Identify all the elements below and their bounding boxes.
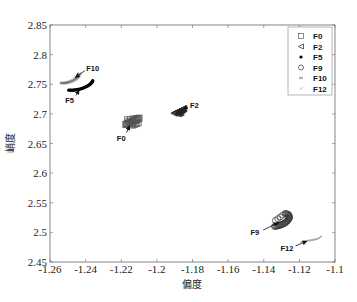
annotation-f9: F9	[250, 228, 259, 237]
y-tick-label: 2.7	[33, 108, 47, 120]
y-tick-label: 2.5	[33, 226, 47, 238]
annotation-f2: F2	[190, 101, 199, 110]
annotation-f0: F0	[117, 134, 126, 143]
y-tick-label: 2.6	[33, 167, 47, 179]
x-tick-label: -1.24	[74, 263, 97, 275]
y-tick-label: 2.85	[28, 19, 48, 31]
y-tick-label: 2.75	[28, 78, 48, 90]
y-tick-label: 2.8	[33, 49, 47, 61]
x-tick-label: -1.22	[110, 263, 133, 275]
y-tick-label: 2.45	[28, 256, 48, 268]
legend-label: F2	[313, 43, 323, 52]
legend-label: F10	[313, 74, 327, 83]
x-tick-label: -1.16	[217, 263, 240, 275]
annotation-f12: F12	[280, 244, 293, 253]
legend-label: F0	[313, 32, 323, 41]
annotation-f5: F5	[65, 96, 74, 105]
legend-label: F5	[313, 53, 323, 62]
legend: F0F2F5F9F10F12	[288, 27, 332, 95]
x-tick-label: -1.12	[288, 263, 311, 275]
legend-label: F12	[313, 85, 327, 94]
x-tick-label: -1.18	[181, 263, 204, 275]
annotation-f10: F10	[86, 64, 99, 73]
x-tick-label: -1.2	[148, 263, 165, 275]
y-tick-label: 2.65	[28, 138, 48, 150]
x-tick-label: -1.1	[326, 263, 343, 275]
y-axis-label: 峭度	[4, 133, 16, 153]
y-tick-label: 2.55	[28, 197, 48, 209]
x-axis-label: 偏度	[182, 278, 202, 290]
legend-label: F9	[313, 64, 323, 73]
series-f0	[123, 115, 142, 128]
x-tick-label: -1.14	[252, 263, 275, 275]
scatter-chart: -1.26-1.24-1.22-1.2-1.18-1.16-1.14-1.12-…	[0, 0, 357, 302]
